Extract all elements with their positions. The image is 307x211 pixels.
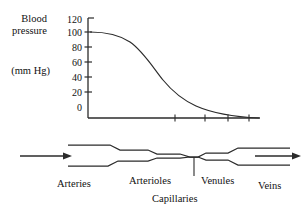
flow-arrow-right-icon: [255, 153, 301, 160]
vessel-label-capillaries: Capillaries: [152, 193, 198, 204]
y-axis-units: (mm Hg): [11, 65, 50, 77]
blood-vessel-diagram: Arteries Arterioles Venules Veins Capill…: [20, 145, 301, 204]
y-tick-80: 80: [72, 42, 82, 53]
y-tick-20: 20: [72, 87, 82, 98]
vessel-lower-wall: [68, 157, 290, 166]
y-tick-100: 100: [67, 27, 82, 38]
y-tick-60: 60: [72, 57, 82, 68]
flow-arrow-left-icon: [20, 153, 72, 160]
vessel-label-veins: Veins: [258, 180, 281, 191]
blood-pressure-figure: Blood pressure (mm Hg) 120 100 80 60 40 …: [0, 0, 307, 211]
pressure-curve: [90, 32, 259, 118]
vessel-upper-wall: [68, 145, 290, 157]
vessel-label-arterioles: Arterioles: [129, 175, 171, 186]
vessel-label-venules: Venules: [201, 175, 234, 186]
y-tick-120: 120: [67, 14, 82, 25]
y-axis-title-line2: pressure: [12, 25, 47, 36]
y-axis-title-line1: Blood: [21, 13, 47, 24]
y-tick-40: 40: [72, 72, 82, 83]
y-tick-0: 0: [77, 102, 82, 113]
vessel-label-arteries: Arteries: [57, 178, 91, 189]
